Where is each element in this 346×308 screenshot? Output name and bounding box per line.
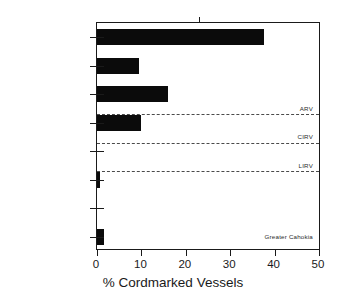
caption-sliver xyxy=(6,300,146,306)
region-label-arv: ARV xyxy=(300,105,313,112)
bar-lundy xyxy=(97,86,168,102)
y-tick-right-lamb xyxy=(97,123,104,124)
x-tick-20 xyxy=(186,249,187,256)
region-divider-arv xyxy=(97,114,319,115)
y-tick-right-lundy xyxy=(97,94,104,95)
y-tick-right-john-chapman xyxy=(97,66,104,67)
x-tick-30 xyxy=(230,249,231,256)
region-divider-lirv xyxy=(97,171,319,172)
y-tick-lamb xyxy=(90,123,97,124)
y-tick-right-fred-edwards xyxy=(97,37,104,38)
x-tick-top-30 xyxy=(199,17,200,23)
region-divider-cirv xyxy=(97,143,319,144)
x-tick-label-20: 20 xyxy=(165,258,205,270)
bar-fred-edwards xyxy=(97,29,264,45)
y-tick-cahokia xyxy=(90,180,97,181)
y-tick-lundy xyxy=(90,94,97,95)
x-tick-0 xyxy=(97,249,98,256)
region-label-lirv: LIRV xyxy=(299,162,313,169)
y-tick-right-lohmann xyxy=(97,208,104,209)
y-tick-john-chapman xyxy=(90,66,97,67)
x-tick-label-30: 30 xyxy=(209,258,249,270)
x-tick-label-50: 50 xyxy=(298,258,338,270)
x-tick-label-0: 0 xyxy=(76,258,116,270)
region-label-greater-cahokia: Greater Cahokia xyxy=(265,233,313,240)
y-tick-lohmann xyxy=(90,208,97,209)
x-tick-10 xyxy=(141,249,142,256)
y-tick-right-cahokia xyxy=(97,180,104,181)
x-tick-50 xyxy=(319,249,320,256)
y-tick-dugan-airfield xyxy=(90,237,97,238)
x-axis-title: % Cordmarked Vessels xyxy=(0,275,346,290)
y-tick-right-audrey xyxy=(97,151,104,152)
y-tick-audrey xyxy=(90,151,97,152)
x-tick-label-40: 40 xyxy=(254,258,294,270)
region-label-cirv: CIRV xyxy=(298,133,313,140)
y-tick-right-dugan-airfield xyxy=(97,237,104,238)
chart-figure: Fred Edwards John Chapman Lundy Lamb Aud… xyxy=(0,0,346,308)
y-tick-fred-edwards xyxy=(90,37,97,38)
x-tick-40 xyxy=(275,249,276,256)
plot-area: Fred Edwards John Chapman Lundy Lamb Aud… xyxy=(96,22,320,250)
x-tick-label-10: 10 xyxy=(120,258,160,270)
